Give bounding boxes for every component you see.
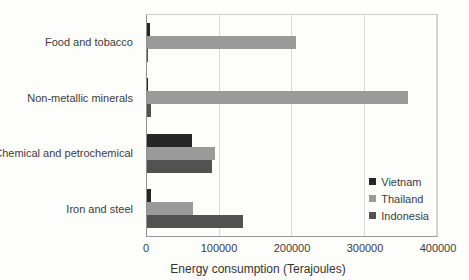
category-label: Non-metallic minerals	[0, 70, 139, 126]
legend-label: Indonesia	[381, 210, 429, 222]
bar-thailand	[147, 147, 215, 160]
bar-group	[147, 70, 437, 125]
bar-thailand	[147, 36, 296, 49]
legend-item-thailand: Thailand	[369, 193, 429, 205]
x-tick-label: 200000	[274, 242, 311, 254]
legend-item-vietnam: Vietnam	[369, 176, 429, 188]
x-axis-title: Energy consumption (Terajoules)	[112, 262, 404, 276]
category-label: Food and tobacco	[0, 14, 139, 70]
legend-item-indonesia: Indonesia	[369, 210, 429, 222]
bar-indonesia	[147, 104, 151, 117]
x-tick-label: 100000	[201, 242, 238, 254]
bar-indonesia	[147, 49, 148, 62]
legend-swatch-icon	[369, 178, 376, 185]
plot-area: VietnamThailandIndonesia	[146, 14, 438, 237]
energy-consumption-bar-chart: Food and tobaccoNon-metallic mineralsChe…	[0, 0, 469, 280]
legend: VietnamThailandIndonesia	[369, 173, 429, 224]
bar-thailand	[147, 202, 193, 215]
x-tick-label: 400000	[420, 242, 457, 254]
x-axis-ticks: 0100000200000300000400000	[146, 242, 438, 256]
bar-indonesia	[147, 160, 212, 173]
bar-vietnam	[147, 23, 150, 36]
legend-label: Vietnam	[381, 176, 421, 188]
legend-label: Thailand	[381, 193, 423, 205]
bar-vietnam	[147, 134, 192, 147]
category-labels: Food and tobaccoNon-metallic mineralsChe…	[0, 14, 139, 237]
category-label: Chemical and petrochemical	[0, 126, 139, 182]
category-label: Iron and steel	[0, 181, 139, 237]
legend-swatch-icon	[369, 212, 376, 219]
x-tick-label: 300000	[347, 242, 384, 254]
x-tick-label: 0	[143, 242, 149, 254]
bar-group	[147, 15, 437, 70]
bar-indonesia	[147, 215, 243, 228]
legend-swatch-icon	[369, 195, 376, 202]
bar-thailand	[147, 91, 408, 104]
bar-vietnam	[147, 189, 151, 202]
bar-vietnam	[147, 78, 148, 91]
